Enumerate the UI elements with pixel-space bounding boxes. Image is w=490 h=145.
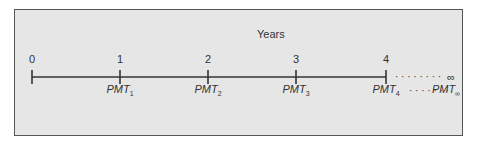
period-label-2: 2	[205, 53, 211, 65]
continuation-dots-upper: · · · · · · · ·	[395, 71, 441, 83]
payment-label-2: PMT2	[194, 83, 221, 95]
payment-label-3: PMT3	[282, 83, 309, 95]
period-label-3: 3	[293, 53, 299, 65]
payment-label-infinity: PMT∞	[432, 83, 460, 95]
payment-label-4: PMT4	[372, 83, 399, 95]
payment-label-1: PMT1	[106, 83, 133, 95]
period-label-4: 4	[383, 53, 389, 65]
period-label-0: 0	[29, 53, 35, 65]
period-label-1: 1	[117, 53, 123, 65]
axis-title: Years	[257, 28, 285, 40]
infinity-label: ∞	[447, 71, 455, 83]
